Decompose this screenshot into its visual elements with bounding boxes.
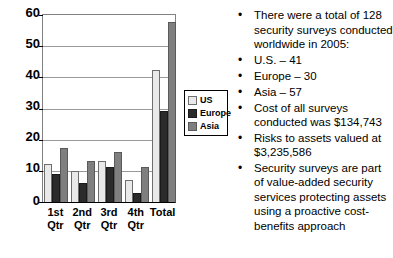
bar-asia-1st-qtr	[60, 148, 68, 202]
bar-europe-1st-qtr	[52, 174, 60, 202]
bullet-item: •There were a total of 128 security surv…	[236, 8, 393, 52]
bar-chart: 60 50 40 30 20 10 0 1stQtr2ndQtr3rdQtr4t…	[0, 0, 232, 258]
bullet-text: There were a total of 128 security surve…	[254, 8, 393, 52]
bar-europe-4th-qtr	[133, 193, 141, 202]
bar-group	[150, 15, 177, 202]
x-axis-label: 2ndQtr	[69, 206, 96, 232]
y-tick-label: 60	[6, 8, 40, 18]
x-axis-label-line: 3rd	[96, 206, 123, 219]
x-axis-label-line: Qtr	[42, 219, 69, 232]
bar-us-3rd-qtr	[98, 161, 106, 202]
bar-group	[43, 15, 70, 202]
bullet-item: •Europe – 30	[236, 69, 393, 84]
legend-item-europe: Europe	[188, 107, 224, 119]
bar-us-2nd-qtr	[71, 171, 79, 203]
x-axis-label: Total	[149, 206, 176, 219]
y-tick-label: 30	[6, 101, 40, 111]
bullet-dot-icon: •	[236, 69, 254, 84]
bullet-text: Asia – 57	[254, 85, 302, 100]
x-axis-label-line: Qtr	[96, 219, 123, 232]
bullet-dot-icon: •	[236, 53, 254, 68]
bar-europe-3rd-qtr	[106, 167, 114, 202]
legend-item-asia: Asia	[188, 120, 224, 132]
bar-us-1st-qtr	[44, 164, 52, 202]
chart-legend: US Europe Asia	[184, 90, 228, 136]
x-axis-label-line: 2nd	[69, 206, 96, 219]
x-axis-label-line: 1st	[42, 206, 69, 219]
bullet-item: •Cost of all surveys conducted was $134,…	[236, 101, 393, 130]
bullet-item: • U.S. – 41	[236, 53, 393, 68]
bullet-text: U.S. – 41	[254, 53, 302, 68]
bullet-dot-icon: •	[236, 101, 254, 116]
bar-europe-2nd-qtr	[79, 183, 87, 202]
y-tick-label: 10	[6, 163, 40, 173]
bar-europe-total	[160, 111, 168, 202]
plot-area	[42, 14, 176, 203]
bullet-dot-icon: •	[236, 161, 254, 176]
x-axis-label-line: Total	[149, 206, 176, 219]
legend-swatch-asia-icon	[188, 122, 197, 131]
bar-asia-3rd-qtr	[114, 152, 122, 202]
x-axis-label: 4thQtr	[122, 206, 149, 232]
bar-asia-2nd-qtr	[87, 161, 95, 202]
x-axis-label: 3rdQtr	[96, 206, 123, 232]
x-axis-label: 1stQtr	[42, 206, 69, 232]
x-axis-label-line: Qtr	[122, 219, 149, 232]
legend-swatch-us-icon	[188, 96, 197, 105]
y-tick-label: 0	[6, 196, 40, 206]
y-tick-label: 40	[6, 70, 40, 80]
bullet-text: Risks to assets valued at $3,235,586	[254, 131, 393, 160]
bullet-item: •Asia – 57	[236, 85, 393, 100]
notes-list: •There were a total of 128 security surv…	[236, 8, 393, 254]
legend-label-europe: Europe	[200, 108, 231, 118]
y-axis-labels: 60 50 40 30 20 10 0	[2, 0, 40, 258]
bar-group	[123, 15, 150, 202]
bullet-dot-icon: •	[236, 85, 254, 100]
bar-asia-total	[168, 22, 176, 202]
bar-asia-4th-qtr	[141, 167, 149, 202]
bullet-item: •Risks to assets valued at $3,235,586	[236, 131, 393, 160]
x-axis-labels: 1stQtr2ndQtr3rdQtr4thQtrTotal	[42, 206, 176, 250]
bullet-dot-icon: •	[236, 8, 254, 23]
y-tick-label: 50	[6, 39, 40, 49]
bar-group	[70, 15, 97, 202]
x-axis-label-line: 4th	[122, 206, 149, 219]
bullet-dot-icon: •	[236, 131, 254, 146]
bullet-item: •Security surveys are part of value-adde…	[236, 161, 393, 234]
y-tick-label: 20	[6, 132, 40, 142]
bar-group	[97, 15, 124, 202]
legend-label-asia: Asia	[200, 121, 219, 131]
bar-us-4th-qtr	[125, 180, 133, 202]
x-axis-label-line: Qtr	[69, 219, 96, 232]
legend-label-us: US	[200, 95, 213, 105]
legend-item-us: US	[188, 94, 224, 106]
bullet-text: Security surveys are part of value-added…	[254, 161, 393, 234]
bullet-text: Europe – 30	[254, 69, 317, 84]
bars-layer	[43, 15, 175, 202]
bar-us-total	[152, 70, 160, 202]
y-tickmark	[39, 202, 43, 203]
bullet-text: Cost of all surveys conducted was $134,7…	[254, 101, 393, 130]
legend-swatch-europe-icon	[188, 109, 197, 118]
